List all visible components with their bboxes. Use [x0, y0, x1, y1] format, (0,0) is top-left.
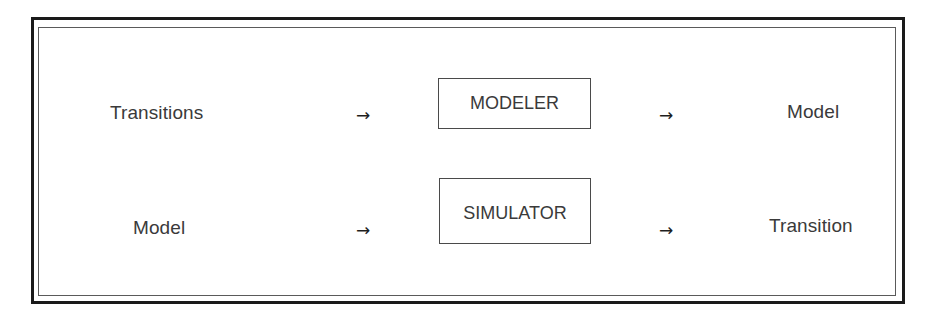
- row2-arrow-right-icon: →: [356, 220, 370, 240]
- row1-arrow-right-icon-2: →: [659, 105, 673, 125]
- row1-output-label: Model: [787, 101, 839, 123]
- row2-arrow-right-icon-2: →: [659, 220, 673, 240]
- row2-input-label: Model: [133, 217, 185, 239]
- row2-output-label: Transition: [769, 215, 853, 237]
- inner-frame-border: [38, 27, 896, 296]
- modeler-process-label: MODELER: [470, 92, 559, 114]
- row1-input-label: Transitions: [110, 102, 203, 124]
- simulator-process-box: SIMULATOR: [439, 178, 591, 244]
- modeler-process-box: MODELER: [438, 78, 591, 129]
- simulator-process-label: SIMULATOR: [463, 202, 566, 224]
- row1-arrow-right-icon: →: [356, 105, 370, 125]
